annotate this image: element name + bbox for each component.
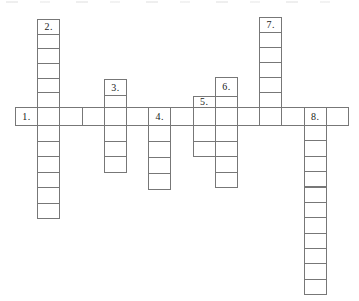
- word-5-cell[interactable]: 5.: [193, 96, 216, 108]
- word-2-cell[interactable]: [37, 48, 60, 64]
- word-8-cell[interactable]: [304, 263, 327, 279]
- word-6-cell[interactable]: [215, 156, 238, 173]
- across-word-1-cell[interactable]: [193, 107, 216, 126]
- word-2-cell[interactable]: [37, 34, 60, 50]
- word-6-cell[interactable]: [215, 141, 238, 157]
- across-word-1-cell[interactable]: [104, 107, 127, 126]
- word-8-cell[interactable]: [304, 187, 327, 203]
- word-6-cell[interactable]: [215, 172, 238, 188]
- top-crop-artifact: [6, 1, 353, 3]
- word-6-cell[interactable]: 6.: [215, 77, 238, 96]
- across-word-1-cell[interactable]: [237, 107, 260, 126]
- clue-number: 6.: [222, 82, 231, 92]
- across-word-1-cell[interactable]: 8.: [304, 107, 327, 126]
- word-8-cell[interactable]: [304, 202, 327, 218]
- across-word-1-cell[interactable]: [215, 107, 238, 126]
- word-4-cell[interactable]: [148, 173, 171, 190]
- word-7-cell[interactable]: [259, 77, 282, 93]
- word-8-cell[interactable]: [304, 125, 327, 141]
- clue-number: 4.: [156, 112, 165, 122]
- across-word-1-cell[interactable]: [126, 107, 149, 126]
- clue-number: 5.: [200, 97, 209, 107]
- clue-number: 2.: [45, 22, 54, 32]
- word-3-cell[interactable]: [104, 156, 127, 173]
- word-2-cell[interactable]: [37, 172, 60, 189]
- word-8-cell[interactable]: [304, 217, 327, 233]
- word-8-cell[interactable]: [304, 171, 327, 187]
- word-6-cell[interactable]: [215, 125, 238, 142]
- word-4-cell[interactable]: [148, 125, 171, 142]
- word-7-cell[interactable]: [259, 47, 282, 63]
- across-word-1-cell[interactable]: [170, 107, 193, 126]
- across-word-1-cell[interactable]: [82, 107, 105, 126]
- across-word-1-cell[interactable]: [326, 107, 349, 126]
- word-5-cell[interactable]: [193, 125, 216, 142]
- word-7-cell[interactable]: [259, 32, 282, 48]
- across-word-1-cell[interactable]: [37, 107, 60, 126]
- across-word-1-cell[interactable]: 1.: [15, 107, 38, 126]
- across-word-1-cell[interactable]: [281, 107, 304, 126]
- word-5-cell[interactable]: [193, 141, 216, 157]
- word-8-cell[interactable]: [304, 248, 327, 264]
- clue-number: 8.: [311, 112, 320, 122]
- word-4-cell[interactable]: [148, 141, 171, 158]
- word-8-cell[interactable]: [304, 156, 327, 172]
- word-3-cell[interactable]: [104, 95, 127, 108]
- word-2-cell[interactable]: [37, 78, 60, 94]
- across-word-1-cell[interactable]: 4.: [148, 107, 171, 126]
- word-7-cell[interactable]: 7.: [259, 17, 282, 33]
- word-3-cell[interactable]: [104, 141, 127, 158]
- clue-number: 7.: [267, 20, 276, 30]
- word-2-cell[interactable]: [37, 63, 60, 79]
- word-8-cell[interactable]: [304, 140, 327, 156]
- word-8-cell[interactable]: [304, 279, 327, 295]
- word-4-cell[interactable]: [148, 157, 171, 174]
- word-2-cell[interactable]: [37, 156, 60, 173]
- word-3-cell[interactable]: 3.: [104, 79, 127, 96]
- word-2-cell[interactable]: 2.: [37, 19, 60, 35]
- word-2-cell[interactable]: [37, 141, 60, 158]
- word-7-cell[interactable]: [259, 62, 282, 78]
- across-word-1-cell[interactable]: [259, 107, 282, 126]
- across-word-1-cell[interactable]: [59, 107, 82, 126]
- clue-number: 3.: [111, 83, 120, 93]
- word-2-cell[interactable]: [37, 125, 60, 142]
- clue-number: 1.: [22, 112, 31, 122]
- word-8-cell[interactable]: [304, 233, 327, 249]
- word-3-cell[interactable]: [104, 125, 127, 142]
- word-7-cell[interactable]: [259, 92, 282, 108]
- word-2-cell[interactable]: [37, 187, 60, 204]
- word-6-cell[interactable]: [215, 96, 238, 108]
- word-2-cell[interactable]: [37, 203, 60, 220]
- crossword-grid: 1.4.8.2.3.5.6.7.: [0, 0, 359, 301]
- word-2-cell[interactable]: [37, 92, 60, 108]
